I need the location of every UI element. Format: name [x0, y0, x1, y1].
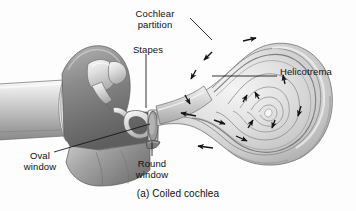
leader-cochlear-partition [190, 18, 212, 40]
figure-caption: (a) Coiled cochlea [108, 188, 248, 199]
coiled-cochlea-figure: Cochlear partition Stapes Helicotrema Ov… [0, 0, 356, 211]
label-stapes: Stapes [122, 44, 174, 55]
round-window [146, 141, 160, 149]
oval-window [148, 111, 158, 141]
label-cochlear-partition: Cochlear partition [118, 8, 192, 30]
helicotrema [265, 109, 272, 117]
label-round-window: Round window [124, 158, 180, 180]
label-helicotrema: Helicotrema [280, 66, 356, 77]
label-oval-window: Oval window [12, 150, 68, 172]
